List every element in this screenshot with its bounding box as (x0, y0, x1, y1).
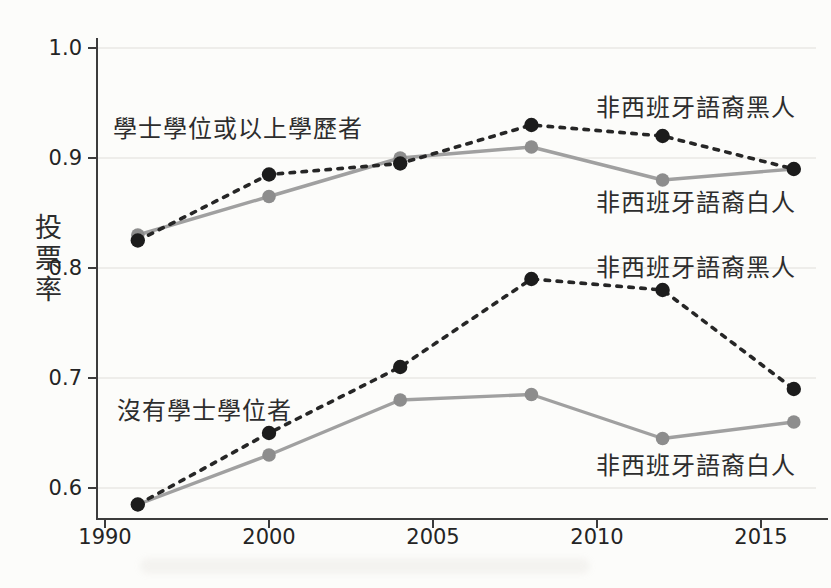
data-point-college-white (525, 140, 539, 154)
y-tick-label-0.7: 0.7 (36, 366, 82, 390)
data-point-noncollege-white (656, 432, 670, 446)
scan-artifact (140, 558, 590, 574)
data-point-noncollege-black (655, 283, 669, 297)
y-tick-label-1.0: 1.0 (36, 36, 82, 60)
data-point-college-black (393, 156, 407, 170)
series-label-college-white: 非西班牙語裔白人 (596, 183, 796, 218)
data-point-noncollege-black (131, 497, 145, 511)
data-point-college-black (655, 129, 669, 143)
data-point-noncollege-black (524, 272, 538, 286)
y-tick-label-0.8: 0.8 (36, 256, 82, 280)
x-tick-label-2015: 2015 (725, 525, 797, 549)
data-point-college-black (131, 233, 145, 247)
x-tick-label-2000: 2000 (233, 525, 305, 549)
x-tick-label-1990: 1990 (69, 525, 141, 549)
data-point-noncollege-black (393, 360, 407, 374)
data-point-noncollege-black (262, 426, 276, 440)
data-point-noncollege-white (262, 448, 276, 462)
data-point-noncollege-white (787, 415, 801, 429)
data-point-noncollege-black (787, 382, 801, 396)
data-point-college-black (524, 118, 538, 132)
voting-rate-chart: 投票率 1.0 0.9 0.8 0.7 0.6 1990 2000 2005 2… (0, 0, 831, 588)
data-point-college-black (787, 162, 801, 176)
data-point-college-black (262, 167, 276, 181)
y-tick-label-0.9: 0.9 (36, 146, 82, 170)
data-point-noncollege-white (525, 388, 539, 402)
group-label-bachelor-or-higher: 學士學位或以上學歷者 (113, 109, 363, 144)
series-label-college-black: 非西班牙語裔黑人 (596, 88, 796, 123)
series-label-noncollege-white: 非西班牙語裔白人 (596, 446, 796, 481)
data-point-college-white (262, 190, 276, 204)
x-tick-label-2010: 2010 (561, 525, 633, 549)
x-tick-label-2005: 2005 (397, 525, 469, 549)
group-label-no-bachelor: 沒有學士學位者 (117, 391, 292, 426)
y-tick-label-0.6: 0.6 (36, 476, 82, 500)
series-label-noncollege-black: 非西班牙語裔黑人 (596, 248, 796, 283)
data-point-noncollege-white (393, 393, 407, 407)
